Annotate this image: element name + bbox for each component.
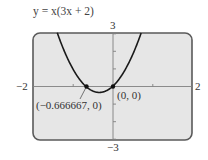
y-min-label: −3	[107, 141, 119, 153]
zero-point-left	[84, 84, 88, 88]
zero-point-origin	[111, 84, 115, 88]
x-max-label: 2	[195, 80, 201, 92]
x-min-label: −2	[16, 80, 28, 92]
y-max-label: 3	[110, 19, 116, 31]
origin-point-label: (0, 0)	[117, 89, 141, 101]
left-zero-point-label: (−0.666667, 0)	[36, 99, 102, 111]
graph-screen	[0, 0, 208, 160]
